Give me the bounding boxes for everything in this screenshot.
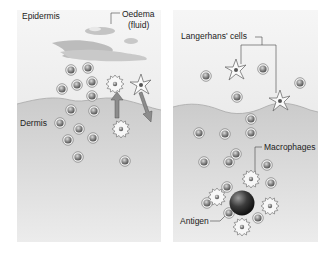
right-panel: Langerhans' cells Macrophages Antigen — [173, 10, 318, 242]
lymphocyte — [262, 160, 273, 171]
lymphocyte — [246, 128, 257, 139]
lymphocyte — [224, 157, 235, 168]
epidermis-label: Epidermis — [22, 11, 60, 21]
lymphocyte — [258, 64, 269, 75]
fluid-label: (fluid) — [128, 20, 149, 30]
lymphocyte — [87, 91, 98, 102]
lymphocyte — [120, 156, 131, 167]
lymphocyte — [253, 213, 264, 224]
lymphocyte — [199, 157, 210, 168]
lymphocyte — [201, 71, 212, 82]
langerhans-label: Langerhans' cells — [181, 31, 247, 41]
lymphocyte — [63, 135, 74, 146]
lymphocyte — [194, 128, 205, 139]
lymphocyte — [57, 84, 68, 95]
lymphocyte — [232, 92, 243, 103]
lymphocyte — [87, 77, 98, 88]
lymphocyte — [266, 178, 277, 189]
lymphocyte — [73, 152, 84, 163]
lymphocyte — [220, 129, 231, 140]
lymphocyte — [66, 65, 77, 76]
lymphocyte — [55, 118, 66, 129]
antigen-label: Antigen — [180, 216, 209, 226]
dermis-label: Dermis — [20, 118, 47, 128]
lymphocyte — [66, 105, 77, 116]
lymphocyte — [246, 114, 257, 125]
oedema-label: Oedema — [122, 9, 155, 19]
lymphocyte — [83, 63, 94, 74]
left-panel: Epidermis Oedema (fluid) Dermis — [17, 9, 161, 242]
macrophages-label: Macrophages — [264, 142, 316, 152]
lymphocyte — [89, 106, 100, 117]
lymphocyte — [88, 133, 99, 144]
lymphocyte — [295, 78, 306, 89]
lymphocyte — [222, 182, 233, 193]
lymphocyte — [74, 124, 85, 135]
immune-response-diagram: Epidermis Oedema (fluid) Dermis Langerha… — [0, 0, 330, 255]
lymphocyte — [72, 80, 83, 91]
antigen-particle — [230, 191, 255, 216]
